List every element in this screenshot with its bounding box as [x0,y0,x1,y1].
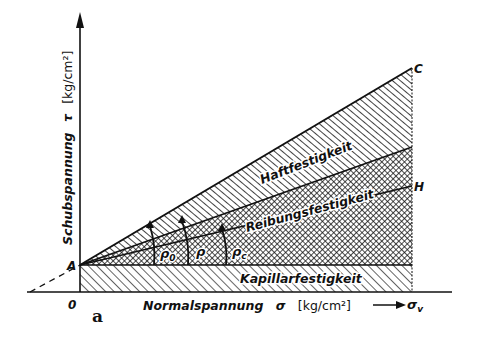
origin-label: 0 [68,298,76,312]
kapillarfestigkeit-label-group: Kapillarfestigkeit [240,271,363,286]
svg-text:Schubspannung τ [k: Schubspannung τ [kg/cm²] [60,51,75,245]
shear-strength-diagram: A 0 C H a Schubspannung τ [kg/cm²] Norma… [0,0,489,337]
sigma-v-label: σv [407,297,424,314]
y-axis-title: Schubspannung [60,132,75,245]
y-axis-label: Schubspannung τ [kg/cm²] [60,51,75,245]
angle-rho-label: ρ [196,244,206,259]
x-axis-label: Normalspannung σ [kg/cm²] [143,298,351,313]
panel-label: a [92,306,103,326]
x-arrow-icon [396,301,406,309]
point-H-label: H [414,180,424,194]
y-axis-arrow-icon [76,12,84,28]
y-axis-symbol: τ [60,113,75,122]
point-C-label: C [414,62,423,76]
x-axis-symbol: σ [276,298,286,313]
kapillarfestigkeit-label: Kapillarfestigkeit [240,271,363,286]
x-axis-title: Normalspannung [143,298,263,313]
x-axis-unit: [kg/cm²] [298,298,351,313]
point-A-label: A [66,259,76,273]
y-axis-unit: [kg/cm²] [60,51,75,104]
